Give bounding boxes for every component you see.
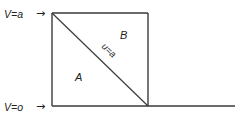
top-arrow-icon: →	[36, 7, 45, 20]
diagonal-line	[52, 13, 148, 106]
bottom-voltage-label: V=o	[4, 101, 23, 113]
diagonal-label: u=a	[100, 41, 119, 60]
diagram-canvas: V=a → V=o → B A u=a	[0, 0, 248, 115]
top-voltage-label: V=a	[4, 8, 23, 20]
bottom-arrow-icon: →	[36, 100, 45, 113]
region-b-label: B	[120, 29, 127, 41]
region-a-label: A	[74, 71, 82, 83]
